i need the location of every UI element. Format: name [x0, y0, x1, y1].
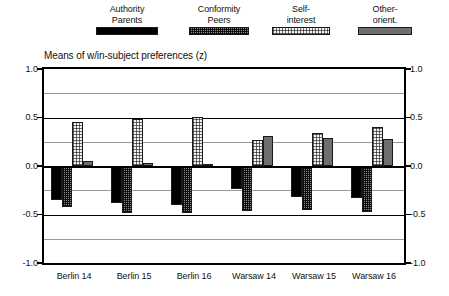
x-axis-category-label: Warsaw 15 — [284, 271, 344, 281]
y-axis-tick-label-right: 0.5 — [410, 113, 444, 122]
zero-line — [44, 166, 404, 168]
chart-title: Means of w/in-subject preferences (z) — [44, 50, 207, 61]
y-axis-tick-mark-right — [406, 68, 411, 70]
y-axis-tick-label-left: -0.5 — [4, 210, 38, 219]
legend-label-line1: Authority — [96, 4, 158, 15]
y-axis-tick-label-right: 0.0 — [410, 162, 444, 171]
bar-parents — [291, 166, 302, 197]
x-axis-category-label: Berlin 14 — [44, 271, 104, 281]
bar-self — [372, 127, 383, 166]
bar-self — [312, 133, 323, 166]
x-axis-category-label: Berlin 15 — [104, 271, 164, 281]
bar-other — [263, 136, 274, 166]
y-axis-tick-label-right: 1.0 — [410, 65, 444, 74]
x-axis-category-label: Warsaw 16 — [344, 271, 404, 281]
bar-self — [132, 119, 143, 166]
plot-area — [42, 67, 406, 265]
bar-parents — [171, 166, 182, 205]
legend-label-line2: interest — [272, 15, 330, 26]
y-axis-tick-mark-left — [37, 262, 42, 264]
bar-parents — [351, 166, 362, 198]
other-swatch — [358, 27, 412, 35]
bar-peers — [362, 166, 373, 212]
bar-other — [383, 139, 394, 166]
bar-parents — [111, 166, 122, 203]
bar-self — [252, 140, 263, 166]
bar-self — [192, 117, 203, 166]
y-axis-tick-mark-right — [406, 165, 411, 167]
legend-label-line1: Conformity — [184, 4, 254, 15]
bar-peers — [182, 166, 193, 213]
y-axis-tick-label-right: -1.0 — [410, 259, 444, 268]
y-axis-tick-label-left: -1.0 — [4, 259, 38, 268]
y-axis-tick-label-right: -0.5 — [410, 210, 444, 219]
bar-peers — [62, 166, 73, 207]
legend-item-parents: AuthorityParents — [96, 4, 158, 35]
y-axis-tick-mark-right — [406, 262, 411, 264]
legend-label-line1: Other- — [356, 4, 414, 15]
bar-peers — [242, 166, 253, 211]
y-axis-tick-mark-right — [406, 117, 411, 119]
y-axis-tick-mark-right — [406, 214, 411, 216]
y-axis-tick-label-left: 1.0 — [4, 65, 38, 74]
legend-item-peers: ConformityPeers — [184, 4, 254, 35]
self-swatch — [272, 27, 330, 35]
y-axis-tick-mark-left — [37, 117, 42, 119]
y-axis-tick-label-left: 0.0 — [4, 162, 38, 171]
legend-label-line2: Peers — [184, 15, 254, 26]
bar-self — [72, 122, 83, 166]
x-axis-category-label: Berlin 16 — [164, 271, 224, 281]
peers-swatch — [189, 27, 249, 35]
y-axis-tick-label-left: 0.5 — [4, 113, 38, 122]
y-axis-tick-mark-left — [37, 165, 42, 167]
bar-other — [323, 138, 334, 166]
parents-swatch — [96, 27, 158, 35]
legend-label-line1: Self- — [272, 4, 330, 15]
legend-item-self: Self-interest — [272, 4, 330, 35]
x-axis-category-label: Warsaw 14 — [224, 271, 284, 281]
bar-parents — [231, 166, 242, 189]
plot-inner — [44, 69, 404, 263]
y-axis-tick-mark-left — [37, 68, 42, 70]
bar-parents — [51, 166, 62, 200]
bar-peers — [122, 166, 133, 213]
chart-legend: AuthorityParentsConformityPeersSelf-inte… — [0, 4, 449, 48]
bar-peers — [302, 166, 313, 210]
y-axis-tick-mark-left — [37, 214, 42, 216]
legend-label-line2: Parents — [96, 15, 158, 26]
legend-item-other: Other-orient. — [356, 4, 414, 35]
legend-label-line2: orient. — [356, 15, 414, 26]
